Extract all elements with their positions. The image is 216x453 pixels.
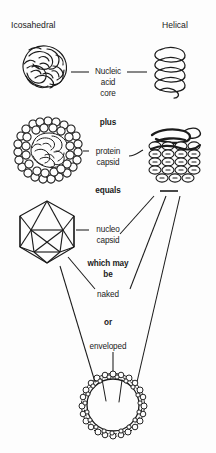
connector-helical-to-naked: [130, 196, 166, 289]
helical-capsid-icon: [149, 128, 200, 182]
virus-structure-diagram: Icosahedral Helical: [0, 0, 216, 453]
label-which-may: which may: [88, 259, 129, 269]
label-plus: plus: [100, 118, 116, 128]
enveloped-virion-icon: [79, 371, 147, 439]
helical-nucleic-acid-coil-icon: [155, 48, 185, 98]
label-nucleo: nucleo: [96, 225, 120, 235]
label-equals: equals: [95, 186, 120, 196]
connector-helical-to-nucleocapsid: [120, 196, 154, 234]
label-enveloped: enveloped: [90, 342, 127, 352]
label-core: core: [100, 89, 116, 99]
label-or: or: [104, 318, 112, 328]
label-nucleic: Nucleic: [95, 67, 121, 77]
leader-line-protein-capsid-right: [129, 150, 143, 156]
nucleic-acid-ball-icon: [20, 43, 70, 93]
icosahedron-icon: [20, 201, 74, 263]
connector-helical-to-enveloped: [137, 196, 180, 382]
icosahedral-capsid-icon: [14, 117, 82, 183]
label-naked: naked: [97, 290, 119, 300]
label-acid: acid: [101, 78, 116, 88]
label-nucleocapsid: capsid: [96, 236, 119, 246]
label-be: be: [103, 270, 112, 280]
label-capsid: capsid: [96, 158, 119, 168]
label-protein: protein: [96, 147, 120, 157]
